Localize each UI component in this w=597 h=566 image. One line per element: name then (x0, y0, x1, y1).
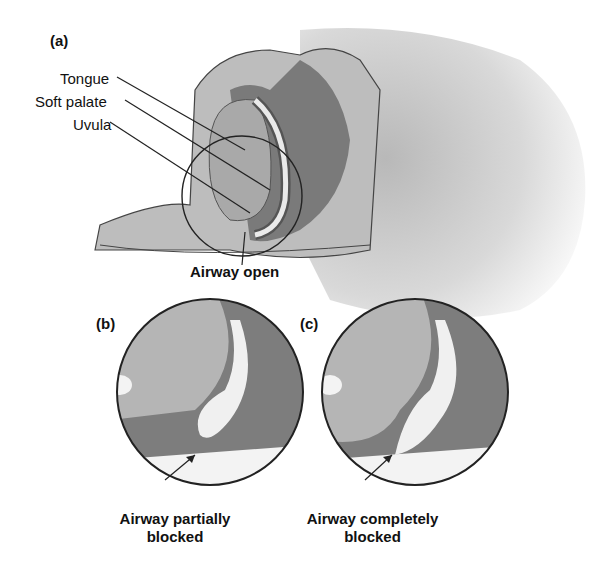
caption-partially-blocked: Airway partially blocked (105, 510, 245, 546)
panel-a-illustration (95, 28, 585, 318)
panel-a-tag: (a) (50, 32, 68, 50)
panel-b-illustration (108, 290, 310, 490)
panel-c-tag: (c) (300, 315, 318, 333)
panel-c-illustration (318, 290, 520, 490)
label-tongue: Tongue (60, 70, 109, 88)
label-uvula: Uvula (73, 116, 111, 134)
panel-b-tag: (b) (96, 315, 115, 333)
label-soft-palate: Soft palate (35, 93, 107, 111)
caption-completely-blocked: Airway completely blocked (290, 510, 455, 546)
caption-airway-open: Airway open (190, 263, 279, 281)
